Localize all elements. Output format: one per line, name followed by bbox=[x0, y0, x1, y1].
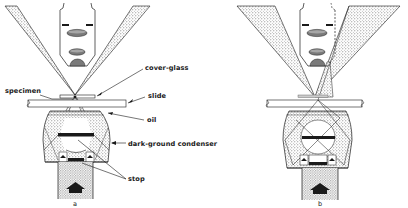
dark-ground-condenser-a bbox=[43, 111, 110, 162]
cover-glass-a bbox=[60, 95, 95, 98]
caption-a: a bbox=[73, 200, 77, 208]
objective-b bbox=[300, 3, 335, 66]
label-cover-glass: cover-glass bbox=[145, 64, 189, 72]
label-specimen: specimen bbox=[5, 87, 41, 95]
lower-tube-a bbox=[58, 162, 93, 199]
label-dark-ground-condenser: dark-ground condenser bbox=[128, 140, 218, 148]
panel-b: b bbox=[237, 3, 400, 208]
dark-ground-condenser-b bbox=[283, 100, 352, 168]
specimen-a bbox=[74, 96, 77, 99]
panel-a: cover-glass slide specimen oil dark-grou… bbox=[5, 3, 218, 208]
figure: cover-glass slide specimen oil dark-grou… bbox=[0, 0, 408, 208]
slide-b bbox=[267, 100, 362, 107]
cover-glass-b bbox=[298, 95, 328, 98]
caption-b: b bbox=[318, 200, 322, 208]
label-oil: oil bbox=[147, 116, 156, 124]
label-slide: slide bbox=[148, 92, 167, 100]
objective-a bbox=[60, 3, 95, 66]
slide-a bbox=[28, 100, 126, 107]
label-stop: stop bbox=[128, 175, 145, 183]
lower-tube-b bbox=[302, 168, 338, 200]
